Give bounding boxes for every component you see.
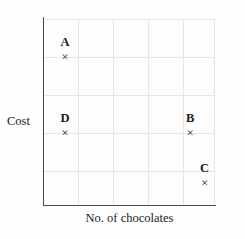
gridline-horizontal bbox=[43, 95, 215, 96]
scatter-chart: A × D × B × C × Cost No. of chocolates bbox=[0, 0, 245, 239]
gridline-vertical bbox=[113, 19, 114, 205]
data-point-label: D bbox=[52, 112, 78, 125]
cross-marker-icon: × bbox=[52, 50, 78, 63]
data-point-d[interactable]: D × bbox=[52, 112, 78, 139]
data-point-a[interactable]: A × bbox=[52, 36, 78, 63]
plot-area: A × D × B × C × bbox=[43, 19, 215, 205]
data-point-c[interactable]: C × bbox=[192, 162, 215, 189]
cross-marker-icon: × bbox=[192, 176, 215, 189]
x-axis-line bbox=[43, 205, 216, 206]
gridline-horizontal bbox=[43, 171, 215, 172]
cross-marker-icon: × bbox=[177, 126, 203, 139]
cross-marker-icon: × bbox=[52, 126, 78, 139]
gridline-horizontal bbox=[43, 19, 215, 20]
data-point-b[interactable]: B × bbox=[177, 112, 203, 139]
gridline-vertical bbox=[78, 19, 79, 205]
y-axis-title: Cost bbox=[7, 114, 30, 129]
x-axis-title: No. of chocolates bbox=[43, 211, 216, 226]
data-point-label: C bbox=[192, 162, 215, 175]
data-point-label: B bbox=[177, 112, 203, 125]
gridline-vertical bbox=[148, 19, 149, 205]
data-point-label: A bbox=[52, 36, 78, 49]
y-axis-line bbox=[43, 17, 44, 206]
